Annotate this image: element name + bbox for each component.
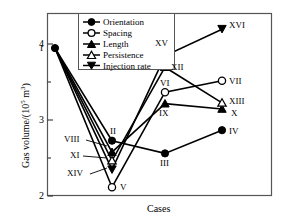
point-label-XIV: XIV	[67, 168, 83, 178]
marker-open-circle-V	[108, 184, 115, 191]
legend-label-persistence: Persistence	[103, 50, 144, 60]
point-label-III: III	[160, 158, 169, 168]
point-label-XI: XI	[70, 150, 80, 160]
point-label-V: V	[120, 182, 127, 192]
marker-open-circle-VI	[161, 89, 168, 96]
point-label-X: X	[231, 108, 238, 118]
marker-filled-circle-II	[108, 137, 115, 144]
gas-volume-line-chart	[0, 0, 284, 221]
y-tick-label-2: 2	[30, 190, 44, 201]
point-label-VII: VII	[229, 76, 242, 86]
marker-filled-circle-IV	[218, 127, 225, 134]
y-tick-label-3: 3	[30, 114, 44, 125]
point-label-IV: IV	[229, 126, 239, 136]
marker-filled-circle-III	[161, 150, 168, 157]
point-label-XII: XII	[171, 62, 184, 72]
x-axis-title: Cases	[147, 203, 170, 214]
y-axis-title-base: Gas volume/(10	[20, 104, 31, 168]
legend-label-injection-rate: Injection rate	[103, 61, 151, 71]
marker-filled-circle-I	[51, 45, 58, 52]
point-label-VIII: VIII	[64, 134, 80, 144]
y-axis-title: Gas volume/(105 m3)	[19, 83, 31, 168]
y-axis-title-exponent: 5	[19, 100, 27, 104]
legend-label-spacing: Spacing	[103, 28, 132, 38]
marker-group-I	[51, 45, 58, 52]
marker-open-circle-VII	[218, 77, 225, 84]
legend-label-orientation: Orientation	[103, 17, 144, 27]
point-label-I: I	[40, 43, 43, 53]
y-axis-title-exponent2: 3	[19, 87, 27, 91]
point-label-II: II	[110, 126, 116, 136]
legend-label-length: Length	[103, 39, 129, 49]
point-label-VI: VI	[160, 78, 170, 88]
y-axis-title-close: )	[20, 83, 31, 86]
point-label-XIII: XIII	[229, 96, 245, 106]
y-axis-title-tail: m	[20, 90, 31, 100]
point-label-XVI: XVI	[229, 20, 245, 30]
point-label-XV: XV	[155, 38, 168, 48]
point-label-IX: IX	[159, 108, 169, 118]
